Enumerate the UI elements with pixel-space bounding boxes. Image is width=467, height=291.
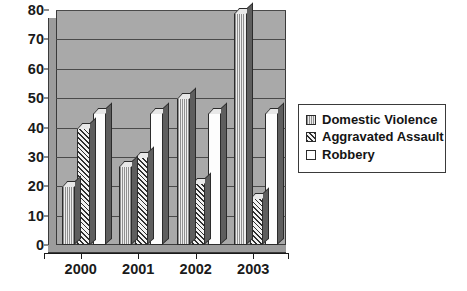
- x-tick-label: 2000: [65, 262, 97, 277]
- bars-layer: [56, 10, 286, 245]
- x-tick-label: 2001: [122, 262, 154, 277]
- plot-side-wall: [48, 18, 56, 253]
- legend-swatch-domestic-violence-icon: [306, 115, 316, 125]
- bar-side-face: [132, 155, 138, 244]
- bar: [234, 13, 247, 245]
- y-tick-label: 50: [28, 91, 44, 106]
- bar-side-face: [163, 102, 169, 244]
- bar-side-face: [205, 173, 211, 244]
- legend-item[interactable]: Aggravated Assault: [306, 130, 438, 144]
- y-axis: 01020304050607080: [6, 0, 44, 291]
- legend-swatch-aggravated-assault-icon: [306, 132, 316, 142]
- x-axis-end-tick: [44, 253, 45, 259]
- legend-item-label: Domestic Violence: [322, 113, 437, 127]
- plot-area: [48, 10, 286, 255]
- y-tick-label: 60: [28, 62, 44, 77]
- y-tick-label: 30: [28, 150, 44, 165]
- legend-item[interactable]: Domestic Violence: [306, 113, 438, 127]
- bar-side-face: [278, 102, 284, 244]
- bar-chart: 01020304050607080 2000200120022003 Domes…: [0, 0, 467, 291]
- bar-side-face: [221, 102, 227, 244]
- bar: [119, 166, 132, 245]
- y-tick-label: 0: [36, 238, 44, 253]
- y-tick-label: 70: [28, 32, 44, 47]
- x-tick-mark: [196, 253, 197, 259]
- bar: [177, 98, 190, 245]
- plot-floor: [48, 245, 286, 253]
- legend-item[interactable]: Robbery: [306, 148, 438, 162]
- bar: [62, 186, 75, 245]
- bar-side-face: [106, 102, 112, 244]
- y-tick-label: 10: [28, 208, 44, 223]
- bar-side-face: [247, 3, 253, 244]
- legend: Domestic ViolenceAggravated AssaultRobbe…: [298, 104, 446, 173]
- x-tick-mark: [138, 253, 139, 259]
- x-axis-end-tick: [288, 253, 289, 259]
- x-axis: 2000200120022003: [48, 262, 286, 288]
- x-tick-label: 2003: [237, 262, 269, 277]
- bar-side-face: [75, 176, 81, 244]
- legend-item-label: Robbery: [322, 148, 375, 162]
- y-tick-label: 40: [28, 120, 44, 135]
- bar-side-face: [148, 146, 154, 244]
- y-tick-label: 80: [28, 3, 44, 18]
- bar-side-face: [263, 188, 269, 244]
- x-tick-mark: [81, 253, 82, 259]
- bar-side-face: [90, 117, 96, 244]
- x-tick-mark: [253, 253, 254, 259]
- legend-swatch-robbery-icon: [306, 150, 316, 160]
- y-tick-label: 20: [28, 179, 44, 194]
- x-tick-label: 2002: [180, 262, 212, 277]
- bar-side-face: [190, 88, 196, 244]
- legend-item-label: Aggravated Assault: [322, 130, 444, 144]
